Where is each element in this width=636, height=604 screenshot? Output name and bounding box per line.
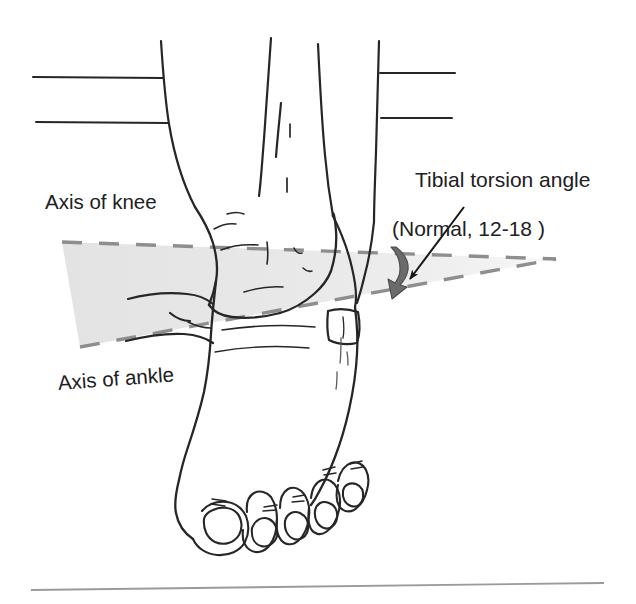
label-tibial-torsion-angle: Tibial torsion angle (Normal, 12-18 ) <box>392 143 590 292</box>
toenail-4 <box>315 502 337 528</box>
torsion-label-line-2: (Normal, 12-18 ) <box>392 217 590 242</box>
toenail-1 <box>204 508 242 544</box>
torsion-label-line-1: Tibial torsion angle <box>415 168 591 191</box>
toes <box>193 461 368 555</box>
tibial-torsion-figure: Axis of knee Axis of ankle Tibial torsio… <box>0 0 636 604</box>
toe-1 <box>193 502 248 555</box>
bottom-rule <box>31 583 604 590</box>
foot-dorsum-detail <box>336 338 348 389</box>
label-axis-of-knee: Axis of knee <box>45 190 157 214</box>
toenail-3 <box>285 512 308 539</box>
toenail-2 <box>252 518 277 546</box>
toenail-5 <box>343 483 363 506</box>
toe-5 <box>337 462 369 511</box>
anatomy-illustration <box>0 0 636 604</box>
